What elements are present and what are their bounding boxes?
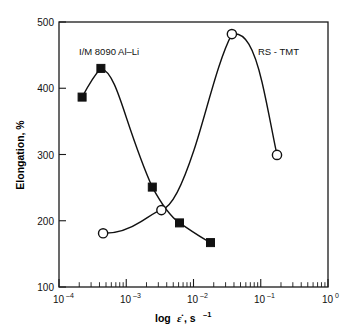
svg-text:10: 10 xyxy=(53,294,65,305)
x-axis-minor-ticks xyxy=(79,282,325,287)
x-tick-label-1e-3: 10 –3 xyxy=(120,292,141,305)
data-point-marker xyxy=(227,29,236,38)
data-point-marker xyxy=(78,93,86,101)
y-tick-label-100: 100 xyxy=(37,282,54,293)
x-tick-label-1e-1: 10 –1 xyxy=(254,292,275,305)
series-im-8090-al-li xyxy=(78,64,214,246)
svg-text:–1: –1 xyxy=(267,292,275,299)
data-point-marker xyxy=(176,219,184,227)
y-axis-title: Elongation, % xyxy=(14,120,26,190)
svg-text:–2: –2 xyxy=(200,292,208,299)
svg-text:10: 10 xyxy=(187,294,199,305)
x-axis-title: log ε̇ , s –1 xyxy=(155,310,211,324)
svg-text:0: 0 xyxy=(335,292,339,299)
data-point-marker xyxy=(97,64,105,72)
x-tick-label-1e0: 10 0 xyxy=(322,292,339,305)
chart-svg: 100 200 300 400 500 Elongation, % xyxy=(0,0,344,335)
x-tick-label-1e-4: 10 –4 xyxy=(53,292,74,305)
annotation-rs-tmt: RS - TMT xyxy=(258,46,299,57)
y-tick-label-400: 400 xyxy=(37,83,54,94)
series-rs-tmt xyxy=(99,29,282,237)
x-axis-title-symbol: ε̇ xyxy=(177,312,184,324)
data-point-marker xyxy=(272,150,281,159)
svg-text:10: 10 xyxy=(322,294,334,305)
svg-text:10: 10 xyxy=(120,294,132,305)
y-tick-label-200: 200 xyxy=(37,216,54,227)
data-point-marker xyxy=(157,206,166,215)
chart-figure: 100 200 300 400 500 Elongation, % xyxy=(0,0,344,335)
y-axis-ticks xyxy=(59,22,66,287)
svg-text:10: 10 xyxy=(254,294,266,305)
x-axis-title-unit-exponent: –1 xyxy=(203,310,211,319)
data-point-marker xyxy=(99,229,108,238)
svg-text:–4: –4 xyxy=(66,292,74,299)
chart-annotations: I/M 8090 Al–Li RS - TMT xyxy=(79,46,299,57)
plot-frame xyxy=(59,22,328,287)
annotation-im-8090-al-li: I/M 8090 Al–Li xyxy=(79,46,139,57)
data-point-marker xyxy=(207,239,215,247)
x-axis-title-unit: , s xyxy=(184,312,196,324)
x-axis-title-lead: log xyxy=(155,312,171,324)
series-im-8090-al-li-line xyxy=(82,68,210,242)
y-tick-label-300: 300 xyxy=(37,150,54,161)
y-axis-title-text: Elongation, % xyxy=(14,120,26,190)
y-axis-tick-labels: 100 200 300 400 500 xyxy=(37,17,54,293)
series-rs-tmt-line xyxy=(103,34,277,234)
svg-text:–3: –3 xyxy=(133,292,141,299)
x-tick-label-1e-2: 10 –2 xyxy=(187,292,208,305)
data-point-marker xyxy=(148,183,156,191)
x-axis-tick-labels: 10 –4 10 –3 10 –2 10 –1 10 0 xyxy=(53,292,339,305)
y-tick-label-500: 500 xyxy=(37,17,54,28)
